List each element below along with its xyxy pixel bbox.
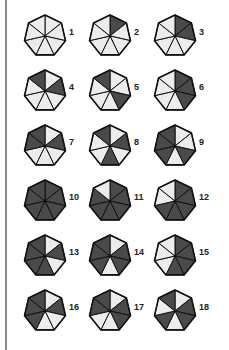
heptagon-9: 9 [152,122,217,177]
heptagon-grid: 1 2 3 4 5 6 7 8 9 10 11 12 13 14 15 16 1… [22,12,217,342]
heptagon-label: 1 [69,27,74,37]
heptagon-shape [22,287,72,337]
heptagon-shape [87,232,137,282]
center-dot [174,145,176,147]
heptagon-shape [87,122,137,172]
heptagon-18: 18 [152,287,217,342]
heptagon-label: 15 [199,247,209,257]
heptagon-shape [152,122,202,172]
heptagon-1: 1 [22,12,87,67]
heptagon-6: 6 [152,67,217,122]
heptagon-2: 2 [87,12,152,67]
center-dot [174,310,176,312]
heptagon-label: 7 [69,137,74,147]
heptagon-14: 14 [87,232,152,287]
center-dot [109,145,111,147]
heptagon-label: 16 [69,302,79,312]
heptagon-5: 5 [87,67,152,122]
heptagon-shape [87,12,137,62]
center-dot [44,35,46,37]
margin-rule [5,0,7,350]
heptagon-label: 2 [134,27,139,37]
heptagon-label: 8 [134,137,139,147]
heptagon-10: 10 [22,177,87,232]
center-dot [44,200,46,202]
heptagon-shape [22,12,72,62]
center-dot [109,200,111,202]
heptagon-label: 5 [134,82,139,92]
heptagon-label: 11 [134,192,144,202]
heptagon-shape [87,177,137,227]
heptagon-4: 4 [22,67,87,122]
heptagon-label: 17 [134,302,144,312]
heptagon-13: 13 [22,232,87,287]
heptagon-12: 12 [152,177,217,232]
heptagon-shape [87,67,137,117]
center-dot [44,310,46,312]
heptagon-label: 10 [69,192,79,202]
heptagon-shape [87,287,137,337]
heptagon-label: 12 [199,192,209,202]
center-dot [109,90,111,92]
center-dot [174,90,176,92]
heptagon-shape [152,232,202,282]
heptagon-7: 7 [22,122,87,177]
heptagon-label: 13 [69,247,79,257]
heptagon-label: 9 [199,137,204,147]
heptagon-shape [152,12,202,62]
center-dot [109,255,111,257]
center-dot [174,200,176,202]
heptagon-label: 4 [69,82,74,92]
heptagon-label: 18 [199,302,209,312]
center-dot [174,255,176,257]
heptagon-shape [22,122,72,172]
heptagon-shape [152,67,202,117]
center-dot [44,255,46,257]
heptagon-shape [152,177,202,227]
heptagon-shape [22,177,72,227]
heptagon-15: 15 [152,232,217,287]
heptagon-11: 11 [87,177,152,232]
heptagon-label: 6 [199,82,204,92]
heptagon-3: 3 [152,12,217,67]
heptagon-8: 8 [87,122,152,177]
heptagon-16: 16 [22,287,87,342]
heptagon-label: 3 [199,27,204,37]
center-dot [44,90,46,92]
heptagon-shape [22,232,72,282]
center-dot [174,35,176,37]
heptagon-shape [22,67,72,117]
heptagon-label: 14 [134,247,144,257]
center-dot [109,310,111,312]
heptagon-shape [152,287,202,337]
center-dot [109,35,111,37]
heptagon-17: 17 [87,287,152,342]
center-dot [44,145,46,147]
